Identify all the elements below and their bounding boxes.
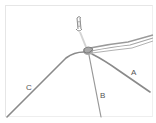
cord-a	[92, 54, 150, 92]
hook-icon	[76, 17, 82, 32]
label-c: C	[26, 84, 32, 92]
label-b: B	[100, 92, 105, 100]
knot-illustration	[0, 0, 156, 123]
label-a: A	[131, 69, 136, 77]
cord-c	[7, 52, 84, 117]
cord-b	[89, 55, 101, 117]
